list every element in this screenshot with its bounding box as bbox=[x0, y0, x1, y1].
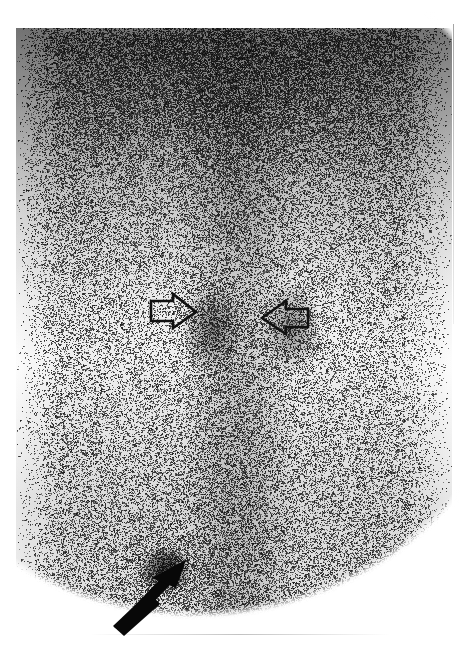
annotation-layer bbox=[0, 0, 472, 657]
solid-arrow-tail bbox=[113, 592, 160, 636]
scintigram-figure: left-paraspinal-focus right-paraspinal-f… bbox=[0, 0, 472, 657]
open-arrow-right-outline bbox=[262, 301, 308, 334]
open-arrow-left-outline bbox=[151, 294, 196, 328]
open-arrow-right-icon bbox=[262, 301, 308, 334]
solid-arrow-lower-left-icon bbox=[113, 560, 186, 636]
open-arrow-left-icon bbox=[151, 294, 196, 328]
scan-plate: left-paraspinal-focus right-paraspinal-f… bbox=[0, 0, 472, 657]
